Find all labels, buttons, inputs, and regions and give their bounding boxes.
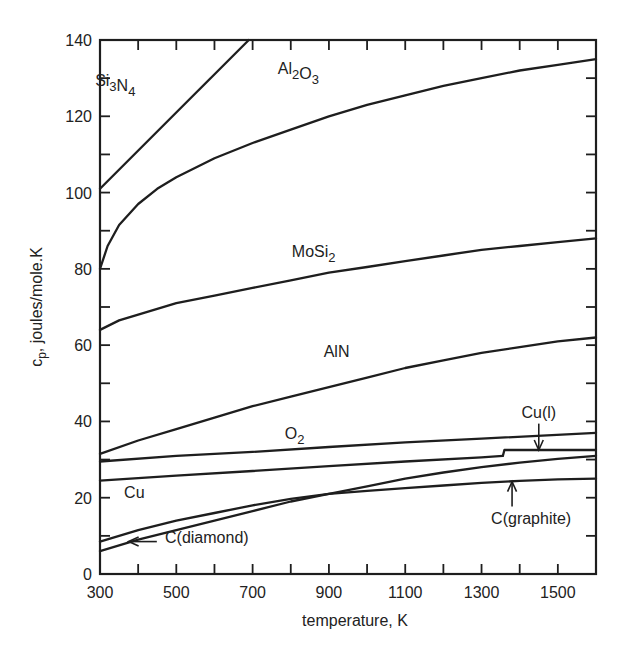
y-tick-label: 40 [74,413,92,430]
label-mosi2: MoSi2 [292,243,336,265]
x-axis-tick-labels: 300500700900110013001500 [87,584,576,601]
data-series [100,40,596,551]
label-aln: AlN [324,343,350,360]
label-c-diamond: C(diamond) [165,529,249,546]
x-tick-label: 500 [163,584,190,601]
label-cu: Cu [124,484,144,501]
label-c-graphite: C(graphite) [491,510,571,527]
y-tick-label: 20 [74,490,92,507]
y-axis-tick-labels: 020406080100120140 [65,32,92,583]
label-cu-l: Cu(l) [521,404,556,421]
series-mosi2 [100,238,596,330]
y-axis-label: cp, joules/mole.K [28,247,49,367]
series-cu-l [503,450,596,456]
x-tick-label: 1500 [540,584,576,601]
heat-capacity-chart: 300500700900110013001500 020406080100120… [0,0,627,655]
y-tick-label: 100 [65,185,92,202]
x-tick-label: 1300 [464,584,500,601]
series-si3n4 [100,40,249,189]
series-o2 [100,433,596,462]
plot-frame [100,40,596,574]
label-o2: O2 [285,425,305,447]
x-tick-label: 300 [87,584,114,601]
y-tick-label: 0 [83,566,92,583]
x-tick-label: 700 [239,584,266,601]
y-axis-label-main: c [28,359,45,367]
series-cu [100,456,503,481]
x-axis-label: temperature, K [302,612,408,629]
plot-border [100,40,596,574]
y-tick-label: 60 [74,337,92,354]
y-tick-label: 80 [74,261,92,278]
x-tick-label: 1100 [388,584,423,601]
curve-labels: Si3N4Al2O3MoSi2AlNO2CuCu(l)C(graphite)C(… [95,60,571,546]
y-tick-label: 140 [65,32,92,49]
y-axis-label-rest: , joules/mole.K [28,247,45,352]
label-si3n4: Si3N4 [95,72,135,99]
x-tick-label: 900 [316,584,343,601]
series-al2o3 [100,59,596,269]
y-tick-label: 120 [65,108,92,125]
label-al2o3: Al2O3 [278,60,319,87]
axis-ticks [100,40,596,574]
